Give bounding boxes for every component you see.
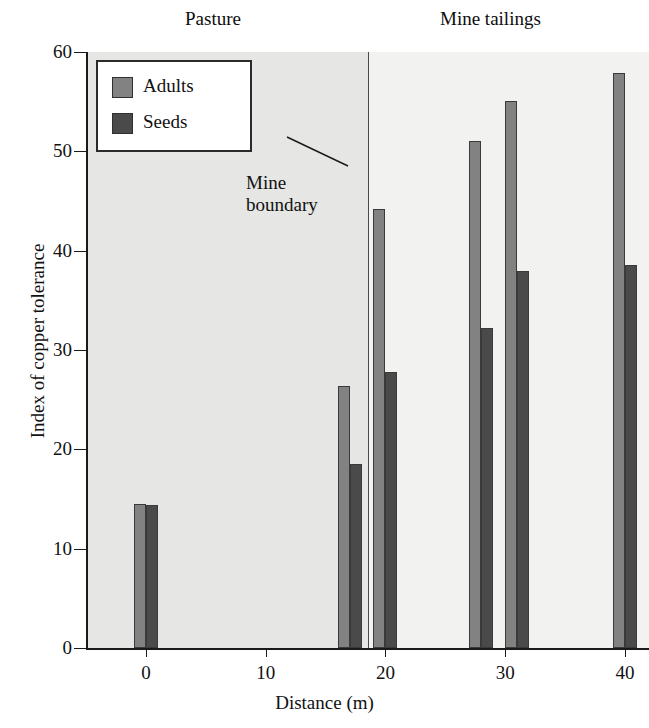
y-tick-label-50: 50 — [38, 141, 72, 160]
y-axis-title: Index of copper tolerance — [27, 211, 49, 471]
legend-swatch-seeds-icon — [112, 113, 133, 134]
x-tick-0 — [146, 648, 147, 657]
bar-seeds-0m — [146, 505, 158, 648]
y-tick-10 — [74, 549, 86, 550]
y-tick-50 — [74, 151, 86, 152]
legend-label-adults: Adults — [143, 74, 194, 98]
copper-tolerance-bar-chart: Pasture Mine tailings 0102030405060 0102… — [0, 0, 649, 728]
y-tick-60 — [74, 52, 86, 53]
mine-boundary-annotation: Mine boundary — [246, 172, 356, 216]
x-tick-10 — [266, 648, 267, 657]
x-tick-label-10: 10 — [246, 662, 286, 684]
x-axis-title: Distance (m) — [0, 692, 649, 714]
x-tick-40 — [625, 648, 626, 657]
legend-swatch-adults-icon — [112, 77, 133, 98]
y-tick-label-0: 0 — [38, 638, 72, 657]
mine-boundary-line — [368, 52, 369, 648]
bar-adults-40m — [613, 73, 625, 648]
x-tick-label-0: 0 — [126, 662, 166, 684]
y-tick-0 — [74, 648, 86, 649]
bar-seeds-20m — [385, 372, 397, 648]
y-tick-40 — [74, 251, 86, 252]
x-tick-label-30: 30 — [485, 662, 525, 684]
x-tick-label-20: 20 — [365, 662, 405, 684]
bar-adults-31m — [505, 101, 517, 648]
bar-seeds-17m — [350, 464, 362, 648]
x-axis-line — [86, 648, 649, 650]
y-tick-label-60: 60 — [38, 42, 72, 61]
bar-adults-28m — [469, 141, 481, 648]
legend-label-seeds: Seeds — [143, 110, 187, 134]
y-tick-20 — [74, 449, 86, 450]
x-tick-label-40: 40 — [605, 662, 645, 684]
annotation-line-1: Mine — [246, 172, 356, 194]
x-tick-20 — [385, 648, 386, 657]
x-tick-30 — [505, 648, 506, 657]
annotation-line-2: boundary — [246, 194, 356, 216]
bar-seeds-31m — [517, 271, 529, 648]
y-tick-30 — [74, 350, 86, 351]
bar-seeds-28m — [481, 328, 493, 648]
region-label-pasture: Pasture — [185, 8, 241, 30]
bar-seeds-40m — [625, 265, 637, 648]
bar-adults-17m — [338, 386, 350, 648]
legend: Adults Seeds — [96, 60, 252, 152]
y-tick-label-10: 10 — [38, 539, 72, 558]
bar-adults-0m — [134, 504, 146, 648]
bar-adults-20m — [373, 209, 385, 648]
y-axis-line — [86, 52, 88, 649]
region-label-mine-tailings: Mine tailings — [440, 8, 541, 30]
